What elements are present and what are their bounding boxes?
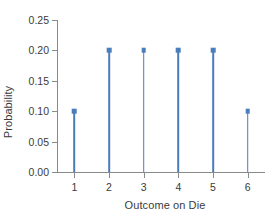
y-tick-mark — [52, 50, 57, 51]
y-tick-mark — [52, 142, 57, 143]
stem-line — [178, 50, 180, 172]
x-tick-mark — [213, 173, 214, 178]
y-tick-mark — [52, 20, 57, 21]
stem-line — [247, 111, 249, 172]
x-tick-mark — [144, 173, 145, 178]
y-axis-title: Probability — [0, 0, 16, 224]
x-axis-line — [57, 172, 265, 173]
data-point-marker — [72, 109, 77, 114]
stem-line — [74, 111, 76, 172]
data-point-marker — [141, 48, 146, 53]
data-point-marker — [245, 109, 250, 114]
y-tick-mark — [52, 81, 57, 82]
y-tick-label: 0.20 — [29, 44, 49, 56]
data-point-marker — [211, 48, 216, 53]
probability-distribution-chart: Probability Outcome on Die 0.000.050.100… — [0, 0, 279, 224]
y-tick-label: 0.00 — [29, 166, 49, 178]
y-tick-mark — [52, 111, 57, 112]
y-tick-mark — [52, 172, 57, 173]
x-tick-label: 3 — [141, 181, 147, 193]
y-tick-label: 0.05 — [29, 136, 49, 148]
y-tick-label: 0.25 — [29, 14, 49, 26]
x-tick-label: 5 — [210, 181, 216, 193]
x-tick-label: 6 — [245, 181, 251, 193]
x-tick-mark — [74, 173, 75, 178]
x-tick-label: 2 — [106, 181, 112, 193]
plot-area: 0.000.050.100.150.200.25 123456 — [57, 20, 265, 172]
x-tick-label: 4 — [175, 181, 181, 193]
y-axis-line — [57, 20, 58, 173]
y-tick-label: 0.10 — [29, 105, 49, 117]
x-tick-label: 1 — [71, 181, 77, 193]
y-tick-label: 0.15 — [29, 75, 49, 87]
data-point-marker — [107, 48, 112, 53]
stem-line — [108, 50, 110, 172]
stem-line — [143, 50, 145, 172]
x-axis-title: Outcome on Die — [60, 199, 270, 211]
x-tick-mark — [109, 173, 110, 178]
x-tick-mark — [248, 173, 249, 178]
stem-line — [212, 50, 214, 172]
x-tick-mark — [178, 173, 179, 178]
data-point-marker — [176, 48, 181, 53]
